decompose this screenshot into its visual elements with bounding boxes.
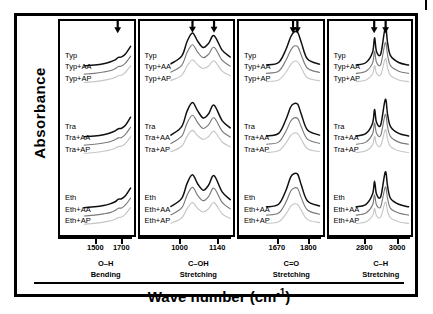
series-label: Typ	[65, 50, 91, 62]
group-legend-tra-oh-bending: TraTra+AATra+AP	[65, 121, 90, 156]
series-label: Eth+AP	[244, 215, 270, 227]
group-legend-typ-c-h-stretching: TypTyp+AATyp+AP	[334, 50, 360, 85]
group-legend-typ-oh-bending: TypTyp+AATyp+AP	[65, 50, 91, 85]
spectrum-curve	[170, 60, 229, 81]
peak-arrow-marker	[370, 21, 377, 33]
series-label: Eth+AP	[65, 215, 91, 227]
group-legend-eth-c-h-stretching: EthEth+AAEth+AP	[334, 192, 360, 227]
series-label: Typ+AP	[334, 73, 360, 85]
panel-c-oh-stretching: TypTyp+AATyp+APTraTra+AATra+APEthEth+AAE…	[138, 19, 235, 237]
series-label: Typ	[145, 50, 171, 62]
axis-tick-label: 1140	[197, 243, 237, 252]
series-label: Eth+AA	[145, 204, 171, 216]
series-label: Eth	[65, 192, 91, 204]
x-axis-title-main: Wave number (cm	[148, 288, 277, 305]
series-label: Typ+AA	[334, 61, 360, 73]
series-label: Typ+AA	[244, 61, 270, 73]
series-label: Tra+AA	[65, 132, 90, 144]
series-label: Tra	[65, 121, 90, 133]
series-label: Eth	[145, 192, 171, 204]
panel-oh-bending: TypTyp+AATyp+APTraTra+AATra+APEthEth+AAE…	[58, 19, 136, 237]
series-label: Eth+AA	[334, 204, 360, 216]
axis-tick-label: 1700	[101, 243, 141, 252]
series-label: Tra	[145, 121, 170, 133]
group-legend-typ-c-oh-stretching: TypTyp+AATyp+AP	[145, 50, 171, 85]
panel-strip: TypTyp+AATyp+APTraTra+AATra+APEthEth+AAE…	[58, 19, 413, 237]
figure-outer-frame: Absorbance TypTyp+AATyp+APTraTra+AATra+A…	[14, 13, 418, 297]
axis-tick-label: 1000	[159, 243, 199, 252]
x-axis-title: Wave number (cm-1)	[17, 287, 421, 305]
group-legend-eth-c-oh-stretching: EthEth+AAEth+AP	[145, 192, 171, 227]
corner-tick-mark	[425, 0, 427, 10]
series-label: Tra+AP	[244, 144, 269, 156]
panel-c-o-stretching: TypTyp+AATyp+APTraTra+AATra+APEthEth+AAE…	[237, 19, 325, 237]
series-label: Eth+AA	[65, 204, 91, 216]
panel-caption-c-h-stretching: C–HStretching	[321, 259, 433, 280]
group-legend-typ-c-o-stretching: TypTyp+AATyp+AP	[244, 50, 270, 85]
spectrum-curve	[84, 188, 130, 208]
series-label: Typ+AP	[244, 73, 270, 85]
peak-arrow-marker	[382, 21, 389, 33]
series-label: Tra	[244, 121, 269, 133]
spectrum-curve	[267, 31, 320, 65]
series-label: Tra+AA	[334, 132, 359, 144]
series-label: Eth+AP	[334, 215, 360, 227]
spectrum-curve	[267, 188, 320, 216]
peak-arrow-marker	[210, 21, 217, 33]
y-axis-label: Absorbance	[29, 53, 51, 173]
series-label: Typ	[334, 50, 360, 62]
series-label: Tra	[334, 121, 359, 133]
spectrum-curve	[267, 103, 320, 136]
spectrum-curve	[356, 59, 408, 82]
panel-caption-line2: Stretching	[321, 270, 433, 281]
group-legend-tra-c-o-stretching: TraTra+AATra+AP	[244, 121, 269, 156]
group-legend-eth-c-o-stretching: EthEth+AAEth+AP	[244, 192, 270, 227]
group-legend-tra-c-h-stretching: TraTra+AATra+AP	[334, 121, 359, 156]
spectrum-curve	[267, 118, 320, 145]
x-axis-title-close: )	[285, 288, 290, 305]
series-label: Typ	[244, 50, 270, 62]
series-label: Typ+AP	[145, 73, 171, 85]
spectrum-curve	[170, 203, 229, 224]
panel-caption-line1: C–H	[321, 259, 433, 270]
series-label: Typ+AA	[65, 61, 91, 73]
spectrum-curve	[267, 46, 320, 74]
series-label: Tra+AA	[145, 132, 170, 144]
spectrum-curve	[170, 130, 229, 151]
series-label: Tra+AP	[145, 144, 170, 156]
series-label: Eth+AA	[244, 204, 270, 216]
spectrum-curve	[267, 173, 320, 207]
spectrum-curve	[356, 129, 408, 152]
series-label: Tra+AP	[65, 144, 90, 156]
peak-arrow-marker	[114, 21, 121, 33]
ftir-spectra-figure: Absorbance TypTyp+AATyp+APTraTra+AATra+A…	[0, 0, 433, 314]
x-axis-title-superscript: -1	[276, 287, 285, 298]
series-label: Typ+AA	[145, 61, 171, 73]
panel-c-h-stretching: TypTyp+AATyp+APTraTra+AATra+APEthEth+AAE…	[327, 19, 414, 237]
group-legend-eth-oh-bending: EthEth+AAEth+AP	[65, 192, 91, 227]
series-label: Eth	[334, 192, 360, 204]
series-label: Eth+AP	[145, 215, 171, 227]
axis-tick-label: 1800	[288, 243, 328, 252]
axis-tick-label: 3000	[377, 243, 417, 252]
series-label: Tra+AA	[244, 132, 269, 144]
series-label: Tra+AP	[334, 144, 359, 156]
series-label: Typ+AP	[65, 73, 91, 85]
spectrum-curve	[84, 117, 130, 137]
series-label: Eth	[244, 192, 270, 204]
group-legend-tra-c-oh-stretching: TraTra+AATra+AP	[145, 121, 170, 156]
peak-arrow-marker	[189, 21, 196, 33]
x-title-rule	[34, 282, 404, 284]
